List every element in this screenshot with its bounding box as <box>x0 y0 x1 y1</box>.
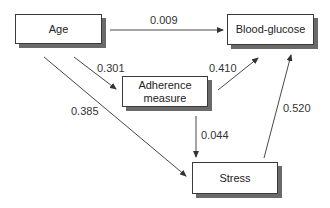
path-diagram: Age Blood-glucose Adherence measure Stre… <box>0 0 330 208</box>
node-stress: Stress <box>192 162 278 194</box>
node-stress-label: Stress <box>219 172 250 185</box>
node-age-label: Age <box>49 23 69 36</box>
node-age: Age <box>15 14 102 44</box>
node-adherence-label-line1: Adherence <box>138 79 191 92</box>
node-adherence-label-line2: measure <box>144 92 187 105</box>
coefficient-age-to-stress: 0.385 <box>71 105 99 117</box>
node-blood-glucose-label: Blood-glucose <box>236 23 306 36</box>
arrow-age-to-stress <box>44 57 186 176</box>
coefficient-age-to-adherence: 0.301 <box>97 62 125 74</box>
node-adherence-measure: Adherence measure <box>122 76 208 107</box>
node-blood-glucose: Blood-glucose <box>227 14 314 45</box>
coefficient-age-to-blood-glucose: 0.009 <box>150 14 178 26</box>
coefficient-adherence-to-stress: 0.044 <box>201 129 229 141</box>
coefficient-stress-to-blood-glucose: 0.520 <box>283 102 311 114</box>
coefficient-adherence-to-blood-glucose: 0.410 <box>209 62 237 74</box>
